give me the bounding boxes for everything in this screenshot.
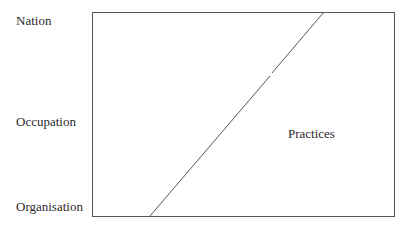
diagonal-divider-upper — [272, 12, 324, 73]
label-nation: Nation — [16, 14, 51, 28]
label-practices: Practices — [288, 127, 335, 141]
frame-box — [93, 13, 395, 217]
diagonal-divider-lower — [150, 76, 270, 216]
label-occupation: Occupation — [16, 115, 76, 129]
label-organisation: Organisation — [16, 200, 83, 214]
